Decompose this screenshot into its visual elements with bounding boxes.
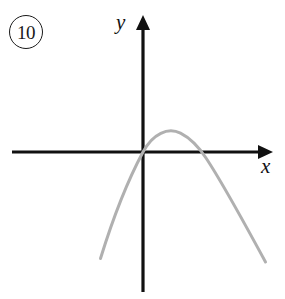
y-axis-arrowhead [136, 15, 150, 30]
y-axis-label: y [116, 12, 125, 33]
x-axis-label: x [261, 156, 270, 177]
figure-canvas: 10 y x [0, 0, 285, 299]
coordinate-plot [0, 0, 285, 299]
